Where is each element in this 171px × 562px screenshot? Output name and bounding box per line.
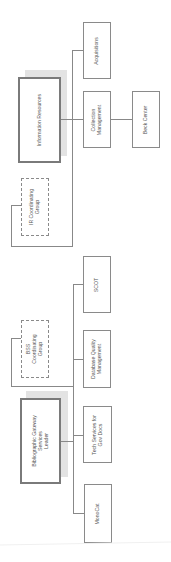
connector xyxy=(73,435,83,436)
node-label: SCOT xyxy=(94,277,100,291)
label-line: Tech Services for xyxy=(91,415,97,455)
label-line: Leader xyxy=(42,433,48,449)
connector xyxy=(73,513,84,514)
label-line: Group xyxy=(34,200,40,214)
node-beck-center: Beck Center xyxy=(132,91,160,148)
node-bibliographic-gateway-services-leader: Bibliographic GatewayServicesLeader xyxy=(20,398,61,484)
connector xyxy=(111,119,132,120)
node-label: CollectionManagement xyxy=(91,104,103,134)
node-bss-coordinating-group: BSSCoordinatingGroup xyxy=(21,320,49,378)
node-database-quality-management: Database QualityManagement xyxy=(83,330,111,388)
connector xyxy=(11,386,73,387)
connector xyxy=(72,50,83,51)
connector xyxy=(72,119,83,120)
node-label: Information Resources xyxy=(37,94,43,146)
connector xyxy=(61,119,72,120)
label-line: Management xyxy=(96,344,102,374)
node-label: Bibliographic GatewayServicesLeader xyxy=(32,415,50,467)
node-label: Acquisitions xyxy=(94,37,100,65)
label-line: Bibliographic Gateway xyxy=(31,415,37,467)
node-information-resources: Information Resources xyxy=(18,77,61,163)
connector xyxy=(11,205,12,247)
label-line: Gov Docs xyxy=(97,423,103,446)
connector xyxy=(11,338,12,387)
node-label: Database QualityManagement xyxy=(91,339,103,379)
connector xyxy=(61,441,73,442)
node-label: Tech Services forGov Docs xyxy=(92,415,104,455)
node-acquisitions: Acquisitions xyxy=(83,22,111,79)
connector xyxy=(73,359,83,360)
node-label: MonoCat xyxy=(95,503,101,524)
trunk-ir xyxy=(72,50,73,247)
node-scot: SCOT xyxy=(83,256,111,313)
connector xyxy=(72,386,73,387)
node-collection-management: CollectionManagement xyxy=(83,91,111,148)
node-monocat: MonoCat xyxy=(84,484,112,543)
trunk-bgs xyxy=(73,284,74,513)
node-label: BSSCoordinatingGroup xyxy=(26,334,44,363)
label-line: Management xyxy=(96,104,102,134)
label-line: Group xyxy=(37,342,43,356)
node-ir-coordinating-group: IR CoordinatingGroup xyxy=(21,178,49,236)
node-label: Beck Center xyxy=(143,105,149,134)
page-edge xyxy=(0,542,171,546)
node-tech-services-gov-docs: Tech Services forGov Docs xyxy=(83,406,112,463)
node-label: IR CoordinatingGroup xyxy=(29,189,41,225)
connector xyxy=(73,284,83,285)
connector xyxy=(11,338,21,339)
connector xyxy=(11,205,21,206)
connector xyxy=(11,246,73,247)
label-line: Services xyxy=(37,431,43,451)
